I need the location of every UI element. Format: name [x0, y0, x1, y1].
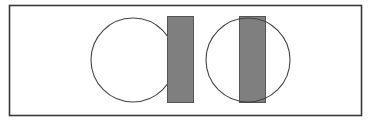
- left-pair-group: [91, 17, 194, 103]
- left-circle: [91, 18, 175, 102]
- right-pair-group: [206, 17, 290, 103]
- diagram-canvas: [0, 0, 377, 122]
- left-rectangle: [168, 17, 194, 103]
- right-rectangle: [240, 17, 266, 103]
